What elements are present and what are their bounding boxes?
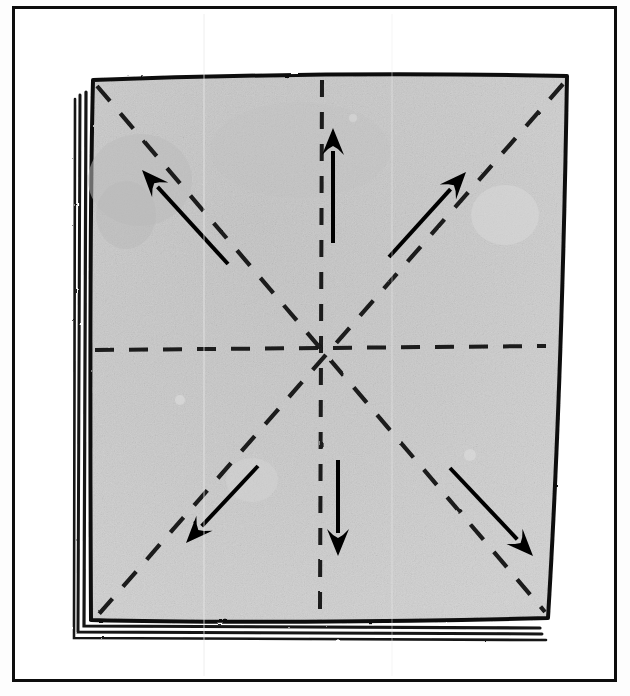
figure-page: Square sheet of paper with eight radiati… xyxy=(0,0,630,696)
figure-frame xyxy=(12,6,617,682)
